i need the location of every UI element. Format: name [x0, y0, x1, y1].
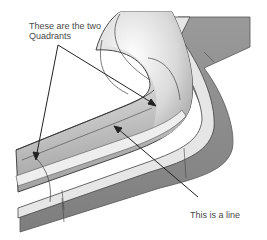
- quadrants-annotation: These are the two Quadrants: [29, 21, 101, 41]
- quadrants-label-line1: These are the two: [29, 21, 101, 31]
- line-annotation: This is a line: [190, 210, 240, 220]
- quadrants-label-line2: Quadrants: [29, 31, 101, 41]
